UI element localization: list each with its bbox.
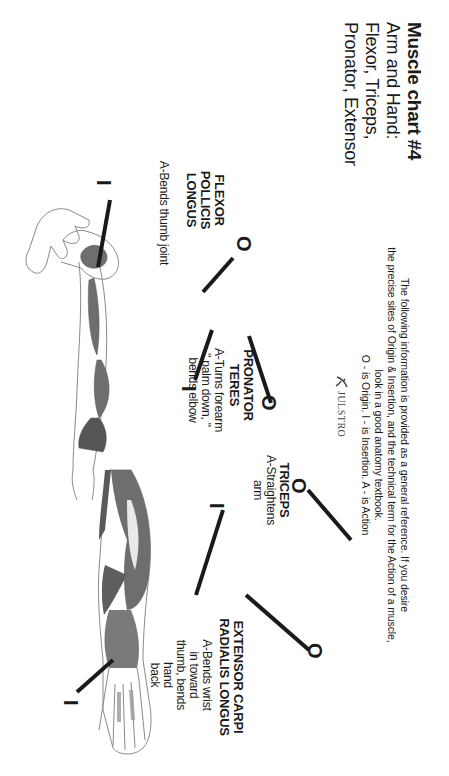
info-line: look in a good anatomy textbook. — [372, 225, 385, 665]
flexor-pollicis-longus-action: A-Bends thumb joint — [157, 148, 170, 278]
posterior-arm-illustration — [98, 470, 151, 754]
flexor-pollicis-longus-label: FLEXOR POLLICIS LONGUS — [184, 150, 226, 250]
title-block: Muscle chart #4 Arm and Hand: Flexor, Tr… — [340, 22, 425, 242]
pronator-teres-muscle — [94, 360, 109, 418]
muscle-chart-page: Muscle chart #4 Arm and Hand: Flexor, Tr… — [0, 0, 449, 776]
info-text: The following information is provided as… — [359, 225, 411, 665]
extensor-carpi-radialis-longus-action: A-Bends wrist in toward thumb, bends han… — [148, 625, 213, 725]
extensor-origin-line — [246, 595, 309, 650]
logo-text: JULSTRO — [337, 391, 348, 437]
triceps-label: TRICEPS A-Straightens arm — [251, 450, 291, 530]
flexor-insertion-marker: I — [94, 180, 114, 186]
triceps-origin-marker: O — [289, 478, 309, 494]
legend-line: O - is Origin. I - is Insertion. A - is … — [359, 225, 372, 665]
extensor-insertion-marker: I — [61, 700, 81, 706]
forearm-extensor-muscles — [105, 610, 140, 668]
flexor-origin-marker: O — [234, 236, 254, 252]
pronator-teres-label: PRONATOR TERES — [227, 345, 255, 425]
extensor-carpi-radialis-longus-label: EXTENSOR CARPI RADIALIS LONGUS — [217, 612, 245, 742]
info-line: the precise sites of Origin & Insertion,… — [385, 225, 398, 665]
figure-logo-icon — [335, 375, 349, 389]
subtitle-line: Arm and Hand: — [382, 22, 403, 242]
elbow-muscle — [79, 418, 107, 452]
flexor-origin-line — [203, 258, 233, 292]
triceps-origin-line — [308, 490, 351, 540]
triceps-insertion-marker: I — [207, 503, 227, 509]
subtitle-line: Flexor, Triceps, — [361, 22, 382, 242]
triceps-insertion-line — [196, 510, 223, 595]
subtitle-line: Pronator, Extensor — [340, 22, 361, 242]
pronator-origin-marker: O — [259, 395, 279, 411]
pronator-insertion-marker: I — [179, 386, 199, 392]
julstro-logo: JULSTRO — [335, 375, 349, 437]
flexor-pollicis-longus-muscle — [88, 278, 99, 355]
extensor-origin-marker: O — [305, 643, 325, 659]
page-title: Muscle chart #4 — [403, 22, 425, 242]
info-line: The following information is provided as… — [398, 225, 411, 665]
